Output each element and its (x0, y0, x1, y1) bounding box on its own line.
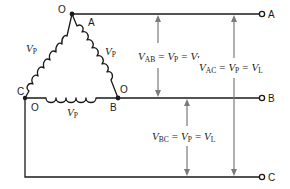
bottom-coil-label: VP (67, 106, 78, 120)
terminal-b-icon (259, 95, 264, 100)
right-vertex-b-label: B (110, 102, 117, 113)
left-coil-label: VP (26, 42, 37, 56)
top-vertex-o-label: O (58, 4, 66, 15)
top-vertex-a-label: A (88, 17, 95, 28)
node-a-dot (70, 12, 75, 17)
left-vertex-o-label: O (31, 102, 39, 113)
vac-double-arrow-icon (231, 15, 237, 176)
terminal-a-label: A (268, 9, 275, 20)
vbc-equation: VBC=VP=VL (152, 130, 216, 144)
terminal-b[interactable]: B (259, 93, 275, 104)
terminal-c-label: C (268, 172, 275, 183)
right-vertex-o-label: O (120, 84, 128, 95)
line-c (25, 98, 259, 177)
terminal-c[interactable]: C (259, 172, 275, 183)
bottom-coil-icon (25, 98, 118, 103)
node-b-dot (116, 96, 121, 101)
left-vertex-c-label: C (17, 86, 24, 97)
terminal-b-label: B (268, 93, 275, 104)
terminal-c-icon (259, 174, 264, 179)
right-coil-label: VP (105, 45, 116, 59)
vab-equation: VAB=VP=VL (138, 50, 202, 64)
left-coil-icon (25, 14, 72, 98)
terminal-a-icon (259, 11, 264, 16)
terminal-a[interactable]: A (259, 9, 275, 20)
delta-connection-diagram: O A C O O B VP VP VP A B C VAB=VP=VL VAC… (0, 0, 290, 189)
